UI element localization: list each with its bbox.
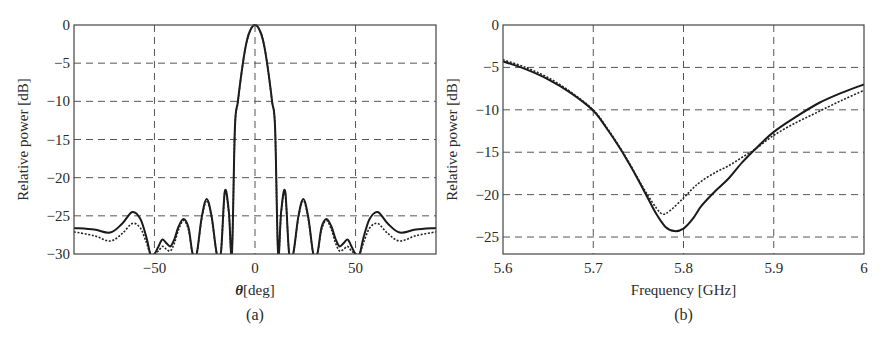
- y-tick-label: 0: [63, 17, 71, 33]
- theta-symbol: θ: [235, 282, 243, 298]
- x-axis-label: Frequency [GHz]: [631, 282, 736, 298]
- panel-caption: (b): [674, 306, 693, 324]
- x-tick-label: −50: [143, 260, 166, 276]
- y-tick-label: −10: [476, 102, 499, 118]
- y-tick-label: −5: [54, 55, 70, 71]
- y-tick-label: −10: [47, 93, 70, 109]
- x-tick-labels: −50050: [143, 260, 363, 276]
- solid-curve: [74, 25, 436, 260]
- y-tick-label: −15: [476, 144, 499, 160]
- x-tick-label: 5.7: [584, 260, 603, 276]
- y-tick-labels: 0−5−10−15−20−25−30: [47, 17, 70, 262]
- x-tick-label: 50: [348, 260, 363, 276]
- figure: 0−5−10−15−20−25−30 −50050 Relative power…: [0, 0, 888, 342]
- chart-frequency-response: 0−5−10−15−20−25 5.65.75.85.96 Relative p…: [444, 17, 868, 324]
- y-axis-label: Relative power [dB]: [444, 78, 460, 200]
- y-axis-label: Relative power [dB]: [15, 78, 31, 200]
- dotted-curve: [74, 25, 436, 260]
- x-tick-label: 5.9: [764, 260, 783, 276]
- grid-lines: [503, 25, 864, 254]
- x-tick-label: 0: [251, 260, 259, 276]
- y-tick-label: 0: [492, 17, 500, 33]
- y-tick-label: −30: [47, 246, 70, 262]
- x-tick-label: 5.8: [674, 260, 693, 276]
- y-tick-label: −15: [47, 132, 70, 148]
- y-tick-label: −25: [47, 208, 70, 224]
- x-axis-label: θ[deg]: [235, 282, 274, 298]
- x-axis-unit: [deg]: [243, 282, 275, 298]
- grid-lines: [74, 25, 436, 254]
- x-tick-label: 6: [860, 260, 868, 276]
- y-tick-label: −5: [483, 59, 499, 75]
- y-tick-label: −25: [476, 229, 499, 245]
- chart-radiation-pattern: 0−5−10−15−20−25−30 −50050 Relative power…: [15, 17, 436, 324]
- y-tick-label: −20: [47, 170, 70, 186]
- y-tick-labels: 0−5−10−15−20−25: [476, 17, 499, 245]
- x-tick-label: 5.6: [494, 260, 513, 276]
- y-tick-label: −20: [476, 187, 499, 203]
- x-tick-labels: 5.65.75.85.96: [494, 260, 869, 276]
- panel-caption: (a): [246, 306, 264, 324]
- data-series: [74, 25, 436, 260]
